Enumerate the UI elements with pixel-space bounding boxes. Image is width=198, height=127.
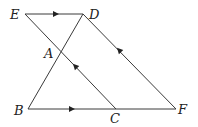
geometry-diagram: E D A B C F — [0, 0, 198, 127]
arrow-BF — [69, 106, 75, 112]
label-F: F — [178, 103, 187, 116]
arrow-ED — [53, 11, 59, 17]
segment-EC — [25, 14, 116, 109]
label-C: C — [110, 112, 120, 125]
segment-BD — [28, 14, 83, 109]
label-A: A — [44, 47, 53, 60]
segment-DF — [83, 14, 176, 109]
label-E: E — [10, 8, 20, 21]
label-B: B — [14, 104, 24, 117]
label-D: D — [89, 8, 99, 21]
